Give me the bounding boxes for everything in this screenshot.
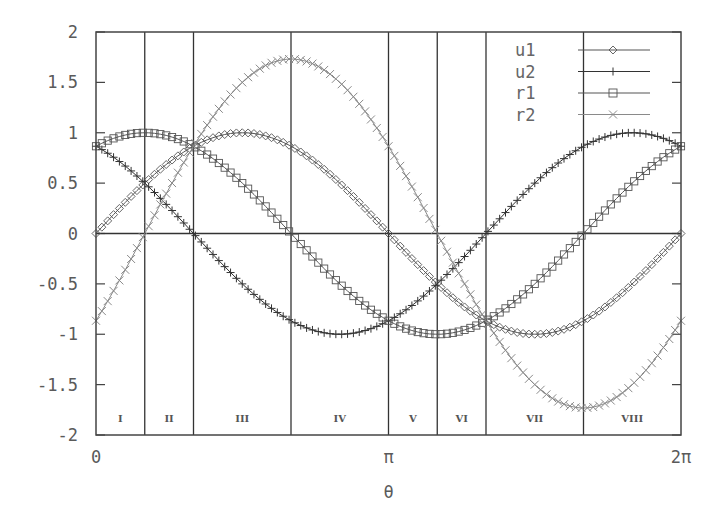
y-tick-label: 1: [68, 123, 78, 143]
region-label: VIII: [620, 413, 643, 424]
y-tick-label: 1.5: [47, 72, 78, 92]
legend: u1u2r1r2: [515, 40, 650, 125]
x-axis-title: θ: [383, 482, 393, 502]
x-tick-label: 0: [91, 447, 101, 467]
x-axis-ticks: 0π2π: [91, 447, 691, 467]
y-tick-label: -2: [58, 425, 78, 445]
legend-label: r2: [515, 105, 535, 125]
region-label: II: [164, 413, 174, 424]
legend-label: u2: [515, 62, 535, 82]
region-label: VII: [525, 413, 543, 424]
x-tick-label: π: [383, 447, 393, 467]
y-tick-label: -0.5: [37, 274, 78, 294]
region-label: I: [118, 413, 123, 424]
y-tick-label: -1: [58, 324, 78, 344]
line-chart: 21.510.50-0.5-1-1.5-2 0π2π IIIIIIIVVVIVI…: [0, 0, 715, 521]
region-label: V: [408, 413, 417, 424]
y-tick-label: 0: [68, 224, 78, 244]
y-tick-label: 2: [68, 22, 78, 42]
legend-item-u2: u2: [515, 62, 650, 82]
region-labels: IIIIIIIVVVIVIIVIII: [118, 413, 643, 424]
legend-item-r2: r2: [515, 105, 650, 125]
y-tick-label: 0.5: [47, 173, 78, 193]
legend-item-r1: r1: [515, 83, 650, 103]
y-tick-label: -1.5: [37, 375, 78, 395]
region-label: VI: [454, 413, 468, 424]
region-label: III: [235, 413, 249, 424]
region-label: IV: [334, 413, 347, 424]
plus-marker-icon: [609, 68, 617, 76]
legend-label: u1: [515, 40, 535, 60]
legend-item-u1: u1: [515, 40, 650, 60]
legend-label: r1: [515, 83, 535, 103]
x-tick-label: 2π: [671, 447, 691, 467]
